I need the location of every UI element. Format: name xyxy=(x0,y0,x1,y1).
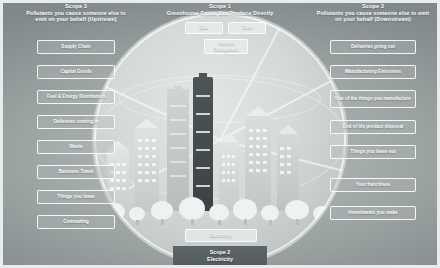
upstream-item-supply-chain[interactable]: Supply Chain xyxy=(37,40,115,54)
scope2-subtitle: Electricity xyxy=(207,256,233,263)
box-label: Electricity xyxy=(210,233,232,239)
upstream-item-waste[interactable]: Waste xyxy=(37,140,115,154)
upstream-item-things-you-lease[interactable]: Things you lease xyxy=(37,190,115,204)
downstream-item-investments-you-make[interactable]: Investments you make xyxy=(330,206,416,220)
box-label: Capital Goods xyxy=(60,69,91,75)
box-label: Things you lease out xyxy=(350,149,396,155)
scope-emissions-infographic: Scope 1 Greenhouse Gases You Produce Dir… xyxy=(0,0,440,268)
downstream-item-things-you-lease-out[interactable]: Things you lease out xyxy=(330,145,416,159)
box-label: Your franchises xyxy=(356,182,390,188)
box-label: Use of the things you manufacture xyxy=(335,96,411,102)
box-label: Commuting xyxy=(63,219,89,225)
scope3-downstream-subtitle: Pollutants you cause someone else to emi… xyxy=(317,10,429,23)
box-label: Manufacturing Emissions xyxy=(345,69,401,75)
scope3-upstream-subtitle: Pollutants you cause someone else to emi… xyxy=(26,10,126,23)
box-label: Supply Chain xyxy=(61,44,90,50)
box-label: Fuel xyxy=(242,25,251,31)
box-label: Gas xyxy=(200,25,209,31)
scope1-title: Scope 1 xyxy=(150,3,290,10)
scope2-title: Scope 2 xyxy=(210,249,231,256)
scope3-upstream-title: Scope 3 xyxy=(22,3,130,10)
downstream-item-your-franchises[interactable]: Your franchises xyxy=(330,178,416,192)
scope2-label: Scope 2 Electricity xyxy=(173,246,267,266)
box-label: Investments you make xyxy=(348,210,397,216)
box-label: Deliveries coming in xyxy=(54,119,99,125)
scope2-item-electricity[interactable]: Electricity xyxy=(185,229,257,242)
box-label: Waste xyxy=(69,144,82,150)
box-label: End of life product disposal xyxy=(343,124,404,130)
downstream-item-manufacturing-emissions[interactable]: Manufacturing Emissions xyxy=(330,65,416,79)
upstream-item-commuting[interactable]: Commuting xyxy=(37,215,115,229)
box-label: Business Travel xyxy=(59,169,94,175)
scope3-downstream-heading: Scope 3 Pollutants you cause someone els… xyxy=(315,3,431,23)
upstream-item-capital-goods[interactable]: Capital Goods xyxy=(37,65,115,79)
scope1-heading: Scope 1 Greenhouse Gases You Produce Dir… xyxy=(150,3,290,16)
scope1-item-aircon-refrigerant[interactable]: Air-con Refrigerant xyxy=(204,39,248,54)
scope3-downstream-title: Scope 3 xyxy=(315,3,431,10)
scope1-item-fuel[interactable]: Fuel xyxy=(228,22,266,34)
upstream-item-deliveries-coming-in[interactable]: Deliveries coming in xyxy=(37,115,115,129)
box-label: Air-con Refrigerant xyxy=(207,41,245,52)
box-label: Deliveries going out xyxy=(351,44,395,50)
box-label: Things you lease xyxy=(57,194,94,200)
upstream-item-fuel-energy-distribution[interactable]: Fuel & Energy Distribution xyxy=(37,90,115,104)
upstream-item-business-travel[interactable]: Business Travel xyxy=(37,165,115,179)
box-label: Fuel & Energy Distribution xyxy=(47,94,105,100)
downstream-item-deliveries-going-out[interactable]: Deliveries going out xyxy=(330,40,416,54)
scope1-subtitle: Greenhouse Gases You Produce Directly xyxy=(167,10,274,16)
scope3-upstream-heading: Scope 3 Pollutants you cause someone els… xyxy=(22,3,130,23)
downstream-item-end-of-life-product-disposal[interactable]: End of life product disposal xyxy=(330,120,416,134)
scope1-item-gas[interactable]: Gas xyxy=(185,22,223,34)
downstream-item-use-of-things-you-manufacture[interactable]: Use of the things you manufacture xyxy=(330,90,416,108)
